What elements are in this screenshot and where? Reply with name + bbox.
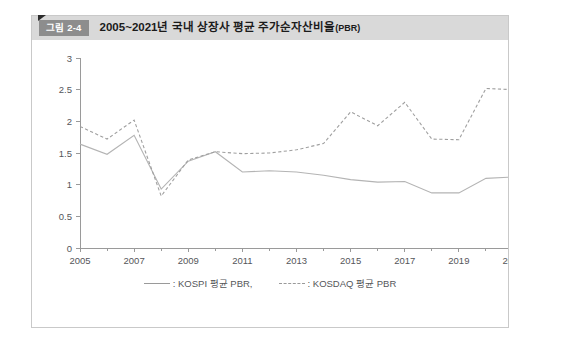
figure-badge-wrapper: 그림 2-4 [39,20,89,37]
x-tick-label: 2007 [124,255,145,266]
x-axis-labels: 200520072009201120132015201720192021 [69,255,508,266]
y-tick-label: 3 [67,53,72,64]
x-tick-label: 2009 [178,255,199,266]
legend-label-kospi: : KOSPI 평균 PBR, [173,276,253,290]
x-tick-label: 2013 [286,255,307,266]
x-tick-label: 2011 [232,255,252,266]
y-axis-ticks [76,58,80,248]
y-tick-label: 2.5 [59,84,72,95]
figure-badge: 그림 2-4 [39,20,89,37]
chart-legend: : KOSPI 평균 PBR, : KOSDAQ 평균 PBR [32,276,508,290]
pbr-line-chart: 00.511.522.53 20052007200920112013201520… [32,40,508,280]
x-tick-label: 2021 [502,255,508,266]
figure-title-unit: (PBR) [335,23,360,33]
figure-title-main: 2005~2021년 국내 상장사 평균 주가순자산비율 [100,21,336,33]
y-tick-label: 2 [67,116,72,127]
figure-title: 2005~2021년 국내 상장사 평균 주가순자산비율(PBR) [100,22,361,34]
legend-item-kosdaq: : KOSDAQ 평균 PBR [279,276,397,290]
x-tick-label: 2019 [448,255,469,266]
x-tick-label: 2005 [69,255,90,266]
legend-label-kosdaq: : KOSDAQ 평균 PBR [308,276,397,290]
figure-container: 그림 2-4 2005~2021년 국내 상장사 평균 주가순자산비율(PBR)… [31,15,509,328]
kospi-line-swatch-icon [144,283,170,284]
y-axis-labels: 00.511.522.53 [59,53,72,254]
plot-area: 00.511.522.53 20052007200920112013201520… [32,40,508,327]
figure-header: 그림 2-4 2005~2021년 국내 상장사 평균 주가순자산비율(PBR) [32,16,508,40]
x-tick-label: 2017 [394,255,415,266]
x-tick-label: 2015 [340,255,361,266]
x-axis-ticks [80,248,508,252]
badge-corner-fold-icon [38,15,46,21]
kospi-series-line [80,135,508,193]
kosdaq-series-line [80,88,508,196]
y-tick-label: 1.5 [59,148,72,159]
y-tick-label: 1 [67,179,72,190]
kosdaq-line-swatch-icon [279,283,305,284]
y-tick-label: 0.5 [59,211,72,222]
legend-item-kospi: : KOSPI 평균 PBR, [144,276,253,290]
y-tick-label: 0 [67,243,72,254]
